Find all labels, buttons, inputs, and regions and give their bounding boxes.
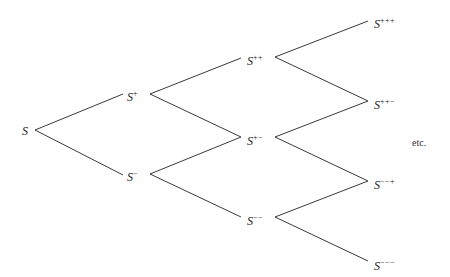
node-base: S bbox=[22, 124, 28, 138]
node-Sppm: S++− bbox=[374, 96, 395, 111]
edge-Smm-Smmm bbox=[275, 217, 368, 261]
node-Spp: S++ bbox=[247, 52, 263, 67]
node-superscript: −−+ bbox=[380, 177, 395, 186]
node-Spm: S+− bbox=[247, 132, 263, 147]
edge-Sp-Spp bbox=[150, 58, 241, 94]
node-superscript: −− bbox=[253, 213, 263, 222]
edge-Smm-Smmp bbox=[275, 181, 368, 217]
node-Smmm: S−−− bbox=[374, 257, 395, 272]
edge-Sm-Spm bbox=[150, 137, 241, 174]
etc-label: etc. bbox=[412, 138, 426, 148]
tree-edges bbox=[0, 0, 450, 277]
node-Sm: S− bbox=[127, 168, 138, 183]
edge-Spp-Sppm bbox=[275, 57, 368, 101]
node-Smmp: S−−+ bbox=[374, 176, 395, 191]
node-superscript: + bbox=[133, 89, 138, 98]
node-S: S bbox=[22, 125, 28, 137]
node-superscript: ++ bbox=[253, 53, 263, 62]
node-Sp: S+ bbox=[127, 88, 138, 103]
edge-Spm-Smmp bbox=[275, 137, 368, 181]
edge-S-Sp bbox=[35, 94, 123, 130]
node-superscript: − bbox=[133, 169, 138, 178]
node-superscript: ++− bbox=[380, 97, 395, 106]
binomial-tree-diagram: SS+S−S++S+−S−−S+++S++−S−−+S−−− etc. bbox=[0, 0, 450, 277]
node-superscript: +− bbox=[253, 133, 263, 142]
node-superscript: +++ bbox=[380, 16, 395, 25]
edge-Sm-Smm bbox=[150, 174, 241, 217]
node-Sppp: S+++ bbox=[374, 15, 395, 30]
edge-Sp-Spm bbox=[150, 94, 241, 137]
node-superscript: −−− bbox=[380, 258, 395, 267]
node-Smm: S−− bbox=[247, 212, 263, 227]
edge-Spp-Sppp bbox=[275, 21, 368, 57]
edge-Spm-Sppm bbox=[275, 101, 368, 137]
edge-S-Sm bbox=[35, 130, 123, 175]
